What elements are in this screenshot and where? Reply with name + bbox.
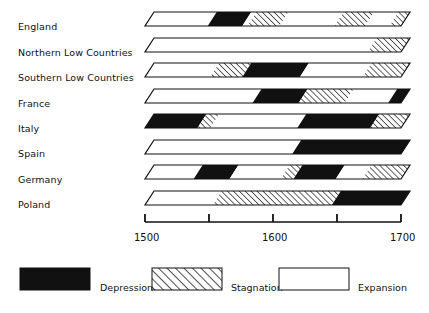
bar-segment-expansion (336, 165, 372, 179)
axis-tick-label-1500: 1500 (134, 232, 159, 243)
bar-segment-depression (297, 114, 379, 128)
bar-segment-stagnation (210, 63, 251, 77)
row-label-poland: Poland (18, 199, 50, 210)
legend-swatch-expansion (279, 268, 349, 290)
bar-segment-depression (208, 12, 252, 26)
bar-segment-expansion (145, 140, 301, 154)
legend-swatch-depression (20, 268, 90, 290)
bar-segment-expansion (145, 191, 222, 205)
bar-row (145, 38, 410, 52)
bar-segment-depression (332, 191, 410, 205)
bar-segment-stagnation (363, 165, 410, 179)
bar-segment-depression (293, 165, 344, 179)
bar-segment-stagnation (389, 12, 410, 26)
bar-outline (145, 165, 410, 179)
bar-rows (145, 12, 410, 205)
bar-segment-depression (194, 165, 239, 179)
bar-segment-depression (145, 114, 206, 128)
bar-row (145, 89, 410, 103)
row-label-northern-low-countries: Northern Low Countries (18, 47, 133, 58)
bar-segment-depression (388, 89, 410, 103)
bar-segment-expansion (145, 63, 219, 77)
x-axis (145, 214, 401, 222)
legend-swatch-stagnation (152, 268, 222, 290)
bar-row (145, 165, 410, 179)
bar-segment-stagnation (213, 191, 341, 205)
legend-label-stagnation: Stagnation (231, 282, 283, 293)
bar-outline (145, 63, 410, 77)
row-label-england: England (18, 21, 57, 32)
bar-row (145, 114, 410, 128)
bar-segment-stagnation (247, 12, 288, 26)
bar-segment-expansion (145, 38, 377, 52)
legend-label-expansion: Expansion (358, 282, 407, 293)
bar-outline (145, 38, 410, 52)
bar-segment-stagnation (370, 114, 410, 128)
bar-segment-expansion (145, 12, 217, 26)
bar-outline (145, 89, 410, 103)
bar-outline (145, 12, 410, 26)
bar-segment-expansion (229, 165, 289, 179)
axis-tick-label-1600: 1600 (262, 232, 287, 243)
bar-segment-stagnation (334, 12, 374, 26)
bar-row (145, 12, 410, 26)
row-label-france: France (18, 98, 50, 109)
bar-outline (145, 114, 410, 128)
bar-segment-stagnation (299, 89, 354, 103)
bar-segment-expansion (145, 89, 262, 103)
bar-segment-expansion (242, 12, 256, 26)
bar-outline (145, 191, 410, 205)
bar-outline (145, 140, 410, 154)
bar-segment-expansion (365, 12, 398, 26)
bar-segment-depression (292, 140, 410, 154)
bar-segment-depression (253, 89, 308, 103)
bar-row (145, 140, 410, 154)
bar-segment-expansion (145, 165, 203, 179)
row-label-southern-low-countries: Southern Low Countries (18, 72, 134, 83)
bar-segment-expansion (300, 63, 372, 77)
bar-row (145, 63, 410, 77)
legend-label-depression: Depression (100, 282, 153, 293)
bar-segment-expansion (210, 114, 306, 128)
bar-segment-depression (242, 63, 309, 77)
bar-segment-stagnation (368, 38, 410, 52)
bar-segment-stagnation (363, 63, 410, 77)
row-label-spain: Spain (18, 148, 45, 159)
bar-segment-expansion (279, 12, 343, 26)
bar-segment-expansion (345, 89, 398, 103)
bar-segment-stagnation (197, 114, 219, 128)
row-label-italy: Italy (18, 123, 39, 134)
economic-phases-chart: England Northern Low Countries Southern … (0, 0, 429, 313)
axis-tick-label-1700: 1700 (390, 232, 415, 243)
bar-row (145, 191, 410, 205)
bar-segment-stagnation (281, 165, 303, 179)
row-label-germany: Germany (18, 174, 62, 185)
